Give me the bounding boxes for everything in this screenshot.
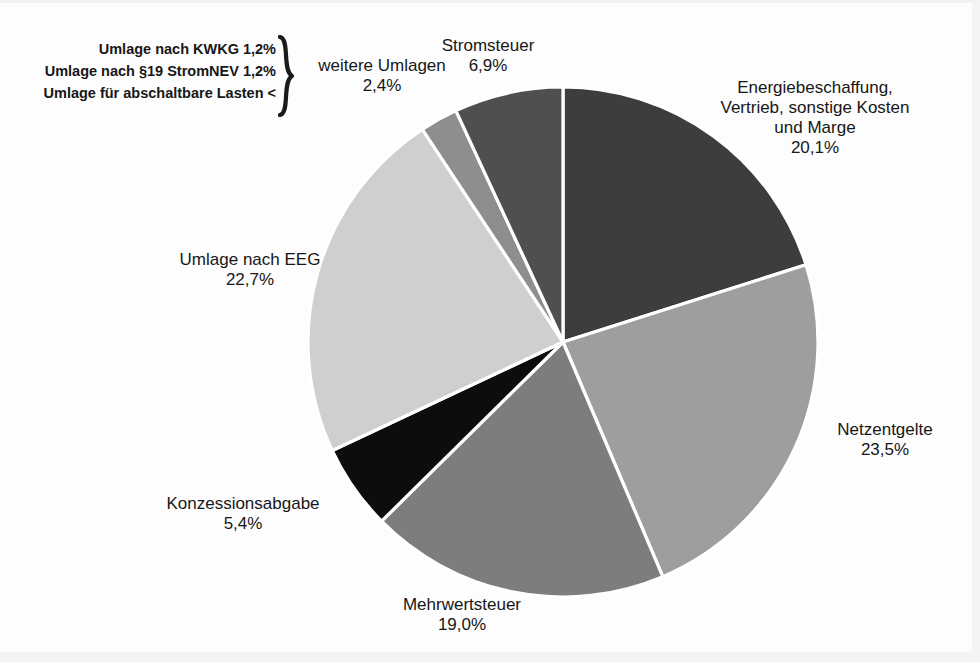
weitere-umlagen-item-list: Umlage nach KWKG 1,2% Umlage nach §19 St…: [18, 38, 276, 104]
slice-label-line2: Vertrieb, sonstige Kosten: [720, 98, 909, 117]
slice-label-line1: Netzentgelte: [837, 420, 932, 439]
slice-label-line1: Konzessionsabgabe: [166, 494, 319, 513]
slice-value-umlage-eeg: 22,7%: [130, 270, 370, 290]
slice-label-konzessionsabgabe: Konzessionsabgabe 5,4%: [118, 494, 368, 534]
slice-value-mehrwertsteuer: 19,0%: [352, 615, 572, 635]
slice-label-netzentgelte: Netzentgelte 23,5%: [805, 420, 965, 460]
slice-label-line1: Energiebeschaffung,: [737, 78, 893, 97]
weitere-umlagen-item-stromnev: Umlage nach §19 StromNEV 1,2%: [18, 60, 276, 82]
slice-value-netzentgelte: 23,5%: [805, 440, 965, 460]
weitere-umlagen-summary-label: weitere Umlagen: [318, 56, 446, 75]
slice-label-mehrwertsteuer: Mehrwertsteuer 19,0%: [352, 595, 572, 635]
slice-label-umlage-eeg: Umlage nach EEG 22,7%: [130, 250, 370, 290]
slice-value-konzessionsabgabe: 5,4%: [118, 514, 368, 534]
weitere-umlagen-annotation: Umlage nach KWKG 1,2% Umlage nach §19 St…: [18, 38, 458, 124]
chart-page: Energiebeschaffung, Vertrieb, sonstige K…: [0, 0, 980, 662]
slice-label-line1: Umlage nach EEG: [180, 250, 321, 269]
slice-label-line3: und Marge: [774, 118, 855, 137]
weitere-umlagen-item-abschaltbare-lasten: Umlage für abschaltbare Lasten <: [18, 82, 276, 104]
slice-label-energiebeschaffung: Energiebeschaffung, Vertrieb, sonstige K…: [690, 78, 940, 158]
weitere-umlagen-summary-percent: 2,4%: [363, 76, 402, 95]
slice-value-energiebeschaffung: 20,1%: [690, 138, 940, 158]
curly-brace-icon: [276, 34, 302, 118]
weitere-umlagen-summary: weitere Umlagen 2,4%: [302, 56, 462, 97]
weitere-umlagen-item-kwkg: Umlage nach KWKG 1,2%: [18, 38, 276, 60]
slice-label-line1: Mehrwertsteuer: [403, 595, 521, 614]
pie-slice-group: [308, 87, 818, 597]
